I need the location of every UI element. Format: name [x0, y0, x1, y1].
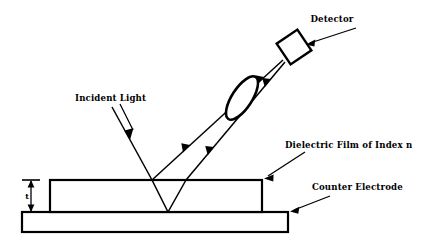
thickness-arrowhead-up — [28, 180, 35, 188]
incident-light-label: Incident Light — [75, 93, 146, 103]
surface-reflected-ray-line — [152, 60, 283, 180]
counter-electrode-leader-arrowhead — [290, 207, 299, 214]
thickness-label: t — [25, 191, 29, 201]
incident-ray-line — [112, 107, 152, 180]
detector-leader-line — [310, 28, 356, 43]
dielectric-film-label: Dielectric Film of Index n — [285, 140, 413, 150]
diagram-canvas: Detector Incident Light Dielectric Film … — [0, 0, 430, 251]
detector-square — [277, 30, 312, 65]
dielectric-film-leader-line — [268, 152, 305, 176]
counter-electrode-slab — [22, 212, 288, 232]
lens-ellipse — [220, 72, 264, 125]
counter-electrode-leader-line — [294, 196, 330, 210]
film-reflected-arrowhead-upper — [262, 78, 271, 87]
detector-label: Detector — [310, 14, 353, 24]
thickness-arrowhead-down — [28, 205, 35, 213]
optics-schematic: Detector Incident Light Dielectric Film … — [0, 0, 430, 251]
counter-electrode-label: Counter Electrode — [312, 182, 403, 192]
film-reflected-arrowhead-lower — [205, 146, 214, 155]
dielectric-film-slab — [50, 180, 262, 212]
